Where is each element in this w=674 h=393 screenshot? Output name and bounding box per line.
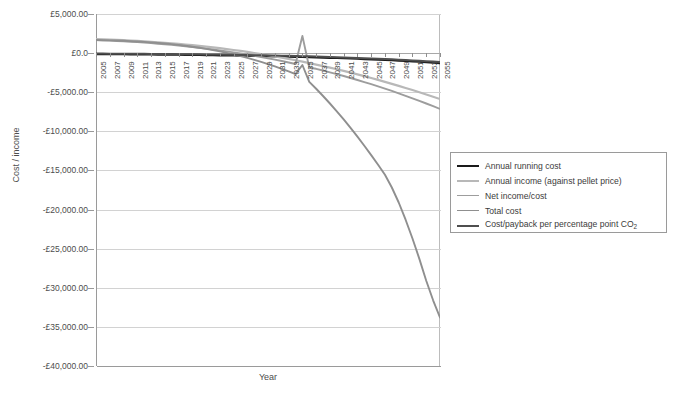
x-tick-mark (412, 53, 413, 57)
x-tick-mark (124, 53, 125, 57)
y-tick-label: -£30,000.00 (43, 283, 88, 293)
x-tick-mark (330, 53, 331, 57)
x-tick-label: 2055 (443, 61, 452, 79)
x-tick-mark (165, 53, 166, 57)
x-tick-label: 2017 (182, 61, 191, 79)
x-tick-mark (440, 53, 441, 57)
x-tick-label: 2031 (278, 61, 287, 79)
x-tick-label: 2053 (430, 61, 439, 79)
legend-item-2[interactable]: Net income/cost (457, 188, 660, 203)
x-tick-label: 2023 (223, 61, 232, 79)
x-tick-mark (261, 53, 262, 57)
x-axis-title: Year (96, 372, 440, 382)
x-tick-label: 2015 (168, 61, 177, 79)
y-tick-mark (88, 14, 94, 15)
y-axis-ticks: £5,000.00£0.0-£5,000.00-£10,000.00-£15,0… (0, 0, 94, 393)
x-tick-label: 2051 (416, 61, 425, 79)
y-tick-mark (88, 288, 94, 289)
x-tick-mark (247, 53, 248, 57)
x-tick-mark (399, 53, 400, 57)
legend-item-3[interactable]: Total cost (457, 203, 660, 218)
x-tick-label: 2021 (209, 61, 218, 79)
x-tick-mark (302, 53, 303, 57)
x-tick-mark (426, 53, 427, 57)
x-tick-mark (357, 53, 358, 57)
x-tick-label: 2033 (292, 61, 301, 79)
x-tick-label: 2045 (375, 61, 384, 79)
x-tick-mark (234, 53, 235, 57)
legend-item-label: Annual running cost (485, 161, 561, 171)
legend-swatch-icon (457, 195, 479, 196)
x-tick-mark (371, 53, 372, 57)
x-tick-mark (344, 53, 345, 57)
series-line-3 (96, 40, 440, 317)
x-tick-label: 2011 (141, 62, 150, 79)
y-tick-label: -£20,000.00 (43, 205, 88, 215)
legend-item-1[interactable]: Annual income (against pellet price) (457, 173, 660, 188)
legend-swatch-icon (457, 165, 479, 167)
legend-item-label: Annual income (against pellet price) (485, 176, 622, 186)
x-tick-mark (96, 53, 97, 57)
x-tick-label: 2037 (320, 61, 329, 79)
legend-swatch-icon (457, 180, 479, 182)
y-tick-mark (88, 210, 94, 211)
x-tick-mark (151, 53, 152, 57)
x-tick-label: 2019 (196, 61, 205, 79)
x-tick-label: 2043 (361, 61, 370, 79)
x-tick-label: 2049 (402, 61, 411, 79)
y-tick-label: £5,000.00 (50, 9, 88, 19)
x-tick-mark (220, 53, 221, 57)
chart-legend: Annual running costAnnual income (agains… (450, 152, 667, 233)
x-tick-mark (275, 53, 276, 57)
x-tick-label: 2029 (265, 61, 274, 79)
x-tick-label: 2035 (306, 61, 315, 79)
x-tick-label: 2009 (127, 61, 136, 79)
y-tick-label: -£5,000.00 (47, 87, 88, 97)
x-tick-label: 2025 (237, 61, 246, 79)
legend-swatch-icon (457, 210, 479, 211)
legend-item-4[interactable]: Cost/payback per percentage point CO2 (457, 218, 660, 233)
y-tick-label: -£40,000.00 (43, 361, 88, 371)
y-tick-mark (88, 53, 94, 54)
legend-item-label: Net income/cost (485, 191, 547, 201)
legend-item-label: Total cost (485, 206, 521, 216)
x-tick-mark (385, 53, 386, 57)
x-tick-mark (316, 53, 317, 57)
co2-subscript: 2 (634, 223, 638, 230)
y-tick-mark (88, 92, 94, 93)
legend-swatch-icon (457, 225, 479, 227)
y-tick-mark (88, 131, 94, 132)
x-tick-mark (179, 53, 180, 57)
y-tick-mark (88, 170, 94, 171)
x-tick-label: 2027 (251, 61, 260, 79)
x-tick-mark (289, 53, 290, 57)
x-tick-mark (110, 53, 111, 57)
x-tick-mark (206, 53, 207, 57)
x-tick-label: 2047 (388, 61, 397, 79)
y-tick-label: -£25,000.00 (43, 244, 88, 254)
x-tick-label: 2007 (113, 61, 122, 79)
x-tick-label: 2041 (347, 61, 356, 79)
y-tick-mark (88, 249, 94, 250)
y-tick-mark (88, 327, 94, 328)
y-tick-label: £0.0 (71, 48, 88, 58)
x-tick-label: 2005 (99, 61, 108, 79)
legend-item-0[interactable]: Annual running cost (457, 158, 660, 173)
y-tick-mark (88, 366, 94, 367)
x-tick-label: 2013 (154, 61, 163, 79)
y-tick-label: -£10,000.00 (43, 126, 88, 136)
y-tick-label: -£15,000.00 (43, 165, 88, 175)
gridline (97, 366, 441, 367)
x-tick-mark (137, 53, 138, 57)
legend-item-label: Cost/payback per percentage point CO2 (485, 219, 637, 232)
x-tick-label: 2039 (333, 61, 342, 79)
y-tick-label: -£35,000.00 (43, 322, 88, 332)
chart-container: Cost / income £5,000.00£0.0-£5,000.00-£1… (0, 0, 674, 393)
x-tick-mark (192, 53, 193, 57)
